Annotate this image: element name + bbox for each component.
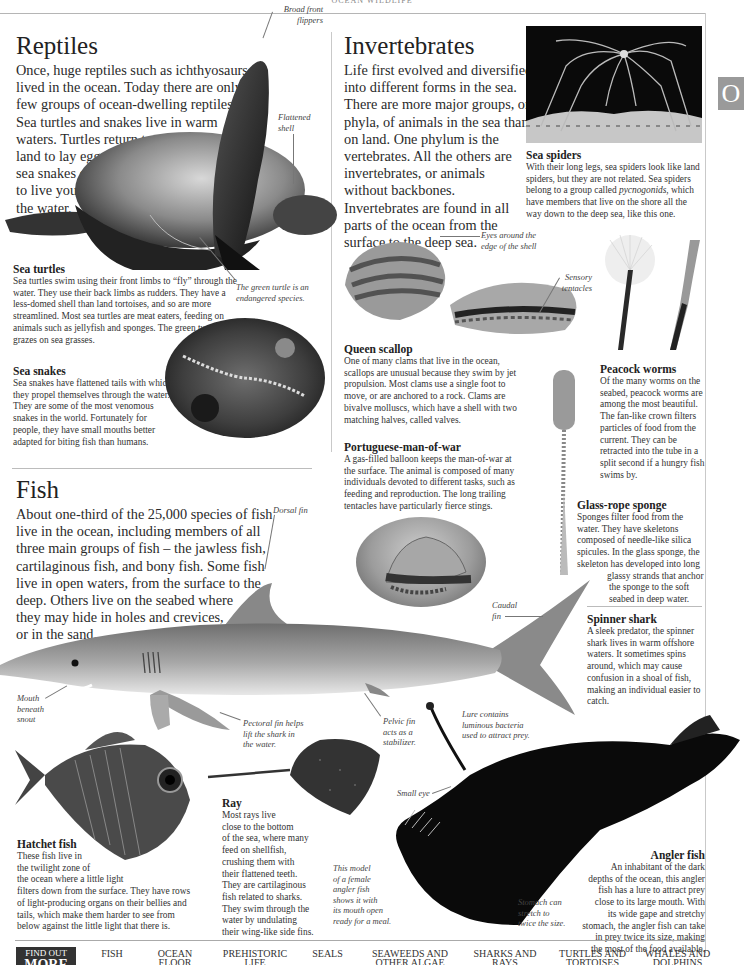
ray-text: Most rays live close to the bottom of th…: [222, 810, 332, 939]
sea-snakes-text: Sea snakes have flattened tails with whi…: [13, 378, 173, 448]
top-rule: [0, 13, 705, 14]
label-flattened-shell: Flattened shell: [278, 112, 311, 133]
invertebrates-lead: Life first evolved and diversified into …: [344, 62, 544, 251]
footer-link-ocean-floor[interactable]: Oceanfloor: [150, 949, 200, 965]
peacock-worms-block: Peacock worms Of the many worms on the s…: [600, 362, 705, 481]
find-out-more-badge: FIND OUT MORE: [16, 947, 76, 965]
label-sensory-tentacles: Sensory tentacles: [560, 272, 592, 293]
label-broad-front-flippers: Broad front flippers: [275, 4, 323, 25]
leader-line: [440, 236, 480, 237]
queen-scallop-heading: Queen scallop: [344, 342, 519, 356]
invertebrates-title: Invertebrates: [344, 32, 474, 60]
hatchet-fish-heading: Hatchet fish: [17, 837, 227, 851]
footer-link-whales[interactable]: Whales anddolphins: [640, 949, 715, 965]
sea-snake-photo: [165, 318, 325, 438]
sea-snakes-heading: Sea snakes: [13, 364, 173, 378]
label-eyes-around-shell: Eyes around the edge of the shell: [481, 230, 536, 251]
footer-rule: [15, 940, 705, 941]
sea-spiders-block: Sea spiders With their long legs, sea sp…: [526, 148, 702, 221]
label-small-eye: Small eye: [397, 788, 430, 799]
section-rule: [12, 468, 312, 469]
man-of-war-heading: Portuguese-man-of-war: [344, 440, 524, 454]
label-caudal-fin: Caudal fin: [492, 600, 517, 621]
fish-title: Fish: [16, 476, 59, 504]
glass-rope-sponge-heading: Glass-rope sponge: [577, 498, 705, 512]
footer-link-seals[interactable]: Seals: [305, 949, 350, 958]
thumb-index-tab[interactable]: O: [718, 77, 744, 110]
angler-fish-text: An inhabitant of the dark depths of the …: [545, 862, 705, 956]
leader-line: [293, 134, 294, 184]
peacock-worms-image: [590, 235, 705, 355]
label-green-turtle: The green turtle is an endangered specie…: [236, 282, 309, 303]
label-dorsal-fin: Dorsal fin: [273, 505, 308, 516]
ray-heading: Ray: [222, 796, 332, 810]
footer-link-turtles[interactable]: Turtles andtortoises: [550, 949, 635, 965]
label-female-model: This model of a female angler fish shows…: [333, 863, 391, 926]
sea-spiders-text: With their long legs, sea spiders look l…: [526, 162, 702, 221]
leader-line: [262, 12, 273, 39]
hatchet-fish-text: These fish live in the twilight zone of …: [17, 851, 227, 933]
leader-line: [505, 616, 543, 617]
footer-link-seaweeds[interactable]: Seaweeds andother algae: [360, 949, 460, 965]
angler-fish-heading: Angler fish: [585, 848, 705, 862]
peacock-worms-text: Of the many worms on the seabed, peacock…: [600, 376, 705, 481]
queen-scallop-text: One of many clams that live in the ocean…: [344, 356, 519, 426]
sea-turtles-heading: Sea turtles: [13, 262, 241, 276]
sea-spider-photo: [526, 26, 702, 143]
running-head: OCEAN WILDLIFE: [0, 0, 744, 5]
spinner-shark-block: Spinner shark A sleek predator, the spin…: [587, 612, 705, 708]
man-of-war-text: A gas-filled balloon keeps the man-of-wa…: [344, 454, 524, 513]
queen-scallop-image: [340, 230, 590, 340]
hatchet-fish-block: Hatchet fish These fish live in the twil…: [17, 837, 227, 933]
sea-snakes-block: Sea snakes Sea snakes have flattened tai…: [13, 364, 173, 448]
footer-link-prehistoric-life[interactable]: Prehistoriclife: [215, 949, 295, 965]
man-of-war-block: Portuguese-man-of-war A gas-filled ballo…: [344, 440, 524, 513]
ray-block: Ray Most rays live close to the bottom o…: [222, 796, 332, 939]
sea-spiders-heading: Sea spiders: [526, 148, 702, 162]
glass-rope-sponge-image: [550, 370, 580, 580]
queen-scallop-block: Queen scallop One of many clams that liv…: [344, 342, 519, 426]
spinner-shark-heading: Spinner shark: [587, 612, 705, 626]
footer-link-sharks-rays[interactable]: Sharks andrays: [465, 949, 545, 965]
peacock-worms-heading: Peacock worms: [600, 362, 705, 376]
spinner-rule: [587, 606, 702, 607]
spinner-shark-text: A sleek predator, the spinner shark live…: [587, 626, 705, 708]
footer-link-fish[interactable]: Fish: [92, 949, 132, 958]
